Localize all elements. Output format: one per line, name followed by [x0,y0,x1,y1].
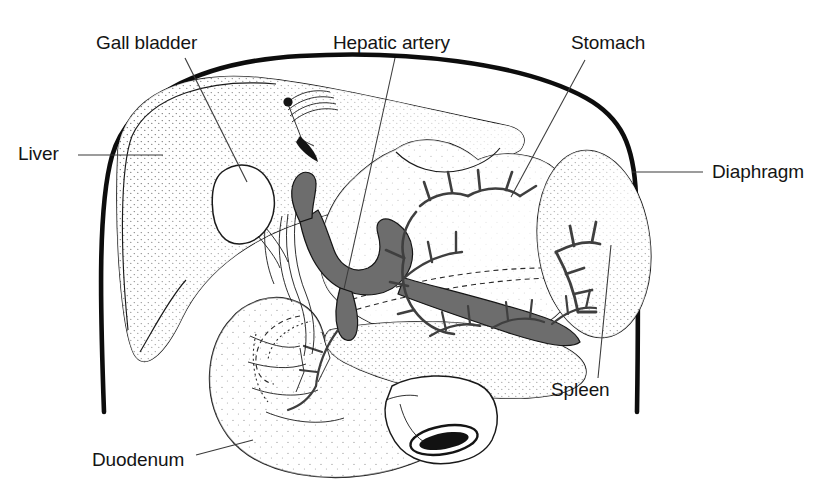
label-text-liver: Liver [18,143,59,164]
anatomy-figure: Gall bladder Hepatic artery Stomach Live… [0,0,837,497]
label-text-diaphragm: Diaphragm [712,161,804,182]
label-text-spleen: Spleen [551,379,610,400]
label-text-gall-bladder: Gall bladder [96,32,198,53]
label-text-stomach: Stomach [571,32,645,53]
label-text-hepatic-artery: Hepatic artery [333,32,450,53]
label-text-duodenum: Duodenum [92,449,184,470]
cut-bowel-end [385,376,497,464]
